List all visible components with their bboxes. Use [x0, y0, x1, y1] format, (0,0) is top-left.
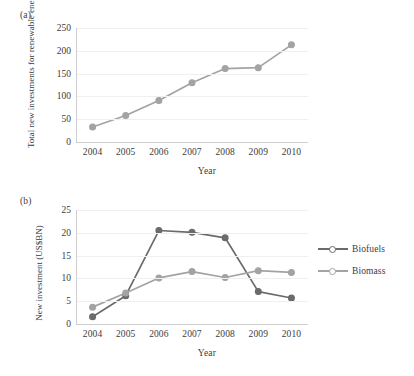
legend-marker-icon	[318, 243, 348, 255]
data-point	[255, 65, 261, 71]
y-tick-label: 200	[41, 46, 71, 56]
x-tick-label: 2009	[241, 147, 275, 157]
y-tick-label: 50	[41, 114, 71, 124]
gridline	[76, 74, 308, 75]
data-point	[90, 124, 96, 130]
y-axis-line	[76, 28, 77, 142]
data-point	[189, 80, 195, 86]
gridline	[76, 233, 308, 234]
y-tick-label: 0	[41, 137, 71, 147]
gridline	[76, 278, 308, 279]
gridline	[76, 51, 308, 52]
y-tick-label: 250	[41, 23, 71, 33]
gridline	[76, 119, 308, 120]
x-tick-label: 2004	[76, 329, 110, 339]
gridline	[76, 28, 308, 29]
data-point	[222, 235, 228, 241]
gridline	[76, 301, 308, 302]
panel-a-plot-area	[76, 28, 308, 142]
panel-a-y-axis-label: Total new investments for renewable ener…	[26, 28, 37, 148]
x-tick-label: 2009	[241, 329, 275, 339]
x-tick-label: 2006	[142, 147, 176, 157]
legend-marker-icon	[318, 265, 348, 277]
data-point	[255, 268, 261, 274]
x-tick-label: 2008	[208, 147, 242, 157]
x-tick-label: 2010	[274, 147, 308, 157]
x-tick-label: 2005	[109, 147, 143, 157]
panel-b-plot-area	[76, 210, 308, 324]
panel-b-label: (b)	[20, 196, 32, 206]
y-tick-label: 5	[41, 296, 71, 306]
x-axis-line	[76, 324, 308, 325]
chart-panel-b: (b) New investment (US$BN) 0510152025 20…	[0, 188, 414, 376]
legend-item-label: Biofuels	[352, 244, 385, 254]
panel-b-series-layer	[76, 210, 308, 324]
figure-container: (a) Total new investments for renewable …	[0, 0, 414, 376]
y-axis-line	[76, 210, 77, 324]
x-tick-label: 2007	[175, 329, 209, 339]
chart-panel-a: (a) Total new investments for renewable …	[0, 0, 414, 188]
panel-a-x-axis-label: Year	[0, 166, 414, 176]
data-point	[123, 290, 129, 296]
y-tick-label: 0	[41, 319, 71, 329]
panel-a-series-layer	[76, 28, 308, 142]
data-point	[189, 269, 195, 275]
y-tick-label: 20	[41, 228, 71, 238]
legend-item-biomass[interactable]: Biomass	[318, 260, 385, 282]
data-point	[156, 98, 162, 104]
data-point	[222, 66, 228, 72]
x-tick-label: 2010	[274, 329, 308, 339]
x-tick-label: 2006	[142, 329, 176, 339]
y-tick-label: 10	[41, 273, 71, 283]
data-point	[90, 314, 96, 320]
x-tick-label: 2004	[76, 147, 110, 157]
x-tick-label: 2007	[175, 147, 209, 157]
data-point	[123, 113, 129, 119]
y-tick-label: 100	[41, 91, 71, 101]
panel-b-x-axis-label: Year	[0, 348, 414, 358]
gridline	[76, 96, 308, 97]
y-tick-label: 15	[41, 251, 71, 261]
data-point	[255, 289, 261, 295]
x-tick-label: 2005	[109, 329, 143, 339]
data-point	[289, 295, 295, 301]
y-tick-label: 150	[41, 69, 71, 79]
legend-item-biofuels[interactable]: Biofuels	[318, 238, 385, 260]
legend-item-label: Biomass	[352, 266, 385, 276]
gridline	[76, 210, 308, 211]
chart-legend: BiofuelsBiomass	[318, 238, 385, 282]
data-point	[90, 304, 96, 310]
x-axis-line	[76, 142, 308, 143]
data-point	[289, 270, 295, 276]
y-tick-label: 25	[41, 205, 71, 215]
data-point	[289, 42, 295, 48]
gridline	[76, 256, 308, 257]
x-tick-label: 2008	[208, 329, 242, 339]
